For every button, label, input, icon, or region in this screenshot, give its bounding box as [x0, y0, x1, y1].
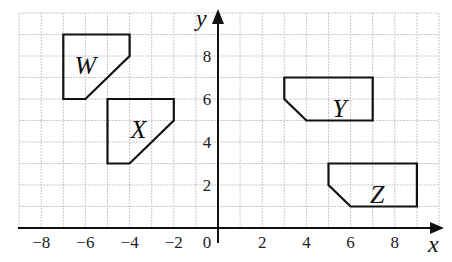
axes: x y 0 [18, 5, 444, 257]
x-tick-label: 2 [258, 233, 267, 252]
y-tick-label: 4 [203, 133, 212, 152]
shape-label-z: Z [370, 180, 385, 209]
x-tick-label: 4 [302, 233, 311, 252]
origin-label: 0 [203, 233, 212, 252]
y-axis-label: y [194, 5, 207, 31]
shape-label-w: W [75, 51, 99, 80]
y-tick-label: 8 [203, 47, 212, 66]
x-tick-label: −4 [121, 233, 140, 252]
shape-w [63, 35, 129, 100]
x-tick-label: −6 [76, 233, 94, 252]
x-tick-label: 8 [391, 233, 400, 252]
y-tick-label: 2 [203, 176, 212, 195]
y-tick-label: 6 [203, 90, 212, 109]
shape-label-x: X [129, 115, 147, 144]
x-tick-label: −2 [165, 233, 183, 252]
y-axis-arrow-icon [212, 9, 224, 24]
x-tick-label: −8 [32, 233, 50, 252]
coordinate-grid: x y 0 −8−6−4−224682468 WXYZ [0, 0, 452, 262]
x-axis-label: x [427, 231, 439, 257]
shape-label-y: Y [332, 94, 349, 123]
x-tick-label: 6 [346, 233, 355, 252]
